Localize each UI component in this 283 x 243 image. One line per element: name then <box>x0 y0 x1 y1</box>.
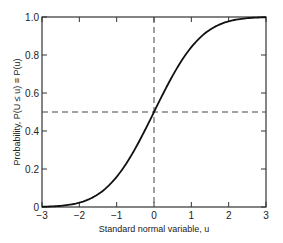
y-tick-label: 0 <box>33 202 39 213</box>
y-tick-label: 1.0 <box>25 12 39 23</box>
x-tick-label: 3 <box>263 210 269 221</box>
y-tick-label: 0.8 <box>25 50 39 61</box>
plot-area: −3−2−1012300.20.40.60.81.0 <box>25 12 269 222</box>
x-axis-title: Standard normal variable, u <box>99 224 210 234</box>
y-tick-label: 0.2 <box>25 164 39 175</box>
y-tick-label: 0.4 <box>25 126 39 137</box>
x-tick-label: −2 <box>74 210 86 221</box>
y-tick-label: 0.6 <box>25 88 39 99</box>
y-axis-title: Probability, P(U ≤ u) ≡ P(u) <box>12 58 22 165</box>
x-tick-label: 2 <box>226 210 232 221</box>
x-tick-label: 1 <box>189 210 195 221</box>
x-tick-label: −1 <box>111 210 123 221</box>
cdf-chart: −3−2−1012300.20.40.60.81.0 Standard norm… <box>0 0 283 243</box>
x-tick-label: 0 <box>151 210 157 221</box>
